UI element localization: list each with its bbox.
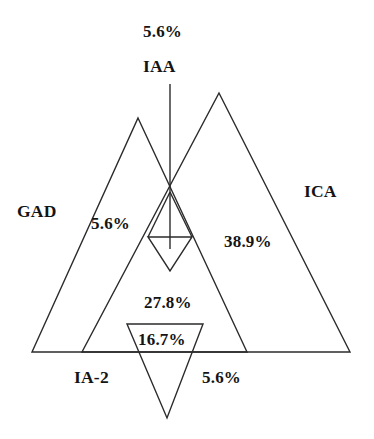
- label-ica-only-percent: 38.9%: [224, 233, 272, 250]
- label-set-gad: GAD: [17, 203, 57, 221]
- label-center-overlap-percent: 16.7%: [138, 331, 186, 348]
- venn-diagram-figure: 5.6% IAA GAD 5.6% ICA 38.9% 27.8% 16.7% …: [0, 0, 374, 439]
- label-ia2-right-percent: 5.6%: [202, 369, 241, 386]
- label-triple-overlap-percent: 27.8%: [144, 294, 192, 311]
- label-set-ica: ICA: [304, 183, 337, 201]
- node-edge-right: [170, 192, 192, 237]
- label-iaa-only-percent: 5.6%: [143, 23, 182, 40]
- label-gad-overlap-percent: 5.6%: [91, 215, 130, 232]
- node-edge-left: [148, 192, 170, 237]
- label-set-ia2: IA-2: [74, 369, 109, 387]
- label-set-iaa: IAA: [143, 58, 176, 76]
- gad-triangle: [32, 118, 247, 352]
